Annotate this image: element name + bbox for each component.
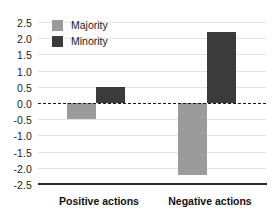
y-tick-label: 2.0 <box>0 34 32 45</box>
y-tick-label: 0.5 <box>0 83 32 94</box>
gridline <box>38 119 266 120</box>
y-tick-label: -1.5 <box>0 148 32 159</box>
x-axis-line <box>38 183 267 185</box>
bar-positive-minority <box>96 87 125 103</box>
legend-label-minority: Minority <box>71 36 108 47</box>
y-tick-label: -1.0 <box>0 131 32 142</box>
gridline <box>38 168 266 169</box>
y-tick-label: 1.5 <box>0 50 32 61</box>
bar-negative-minority <box>207 32 236 103</box>
legend-item-majority: Majority <box>52 18 108 33</box>
legend-label-majority: Majority <box>71 20 108 31</box>
gridline <box>38 135 266 136</box>
y-tick-label: -0.5 <box>0 115 32 126</box>
y-tick-label: -2.0 <box>0 164 32 175</box>
y-tick-label: 1.0 <box>0 67 32 78</box>
bar-negative-majority <box>178 103 207 175</box>
zero-reference-line <box>38 103 266 104</box>
x-axis-label-negative-actions: Negative actions <box>153 196 267 207</box>
y-tick-label: -2.5 <box>0 180 32 191</box>
bar-chart: 2.5 2.0 1.5 1.0 0.5 0.0 -0.5 -1.0 -1.5 -… <box>0 0 274 217</box>
bar-positive-majority <box>67 103 96 119</box>
chart-legend: Majority Minority <box>52 18 108 50</box>
legend-swatch-majority-icon <box>52 20 63 31</box>
gridline <box>38 152 266 153</box>
y-tick-label: 0.0 <box>0 99 32 110</box>
x-axis-label-positive-actions: Positive actions <box>42 196 156 207</box>
legend-item-minority: Minority <box>52 34 108 49</box>
legend-swatch-minority-icon <box>52 36 63 47</box>
y-tick-label: 2.5 <box>0 18 32 29</box>
